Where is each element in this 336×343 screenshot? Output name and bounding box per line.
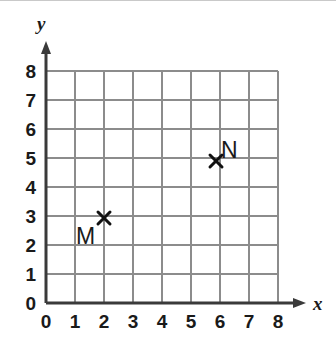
y-tick-8: 8 [16,62,36,81]
y-tick-1: 1 [16,265,36,284]
y-tick-5: 5 [16,149,36,168]
y-tick-4: 4 [16,178,36,197]
plot-area [0,0,336,343]
coordinate-grid-figure: y x 8 7 6 5 4 3 2 1 0 0 1 2 3 4 5 6 7 8 … [0,0,336,343]
x-tick-8: 8 [268,312,288,331]
x-axis-label: x [313,294,323,313]
x-tick-6: 6 [210,312,230,331]
point-label-n: N [221,139,238,162]
y-axis-label: y [37,14,45,33]
y-tick-6: 6 [16,120,36,139]
x-tick-2: 2 [94,312,114,331]
x-tick-4: 4 [152,312,172,331]
y-tick-2: 2 [16,236,36,255]
x-axis [46,298,306,308]
x-tick-0: 0 [36,312,56,331]
y-tick-0: 0 [16,294,36,313]
point-label-m: M [76,225,95,248]
x-tick-3: 3 [123,312,143,331]
y-tick-7: 7 [16,91,36,110]
x-tick-7: 7 [239,312,259,331]
y-tick-3: 3 [16,207,36,226]
y-axis [41,41,51,303]
x-tick-1: 1 [65,312,85,331]
x-tick-5: 5 [181,312,201,331]
